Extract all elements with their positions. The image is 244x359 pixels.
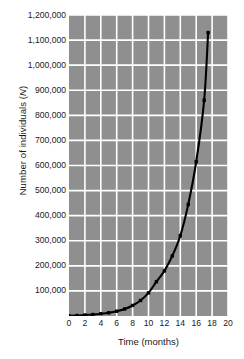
x-axis-title: Time (months) bbox=[69, 336, 228, 347]
y-axis-tick-label: 900,000 bbox=[6, 86, 66, 95]
data-point-marker bbox=[99, 312, 102, 315]
x-axis-tick-labels: 02468101214161820 bbox=[69, 318, 228, 332]
plot-area bbox=[69, 15, 228, 316]
data-point-marker bbox=[206, 31, 209, 34]
y-axis-tick-label: 600,000 bbox=[6, 161, 66, 170]
data-point-marker bbox=[83, 313, 86, 316]
y-axis-tick-label: 200,000 bbox=[6, 261, 66, 270]
x-axis-tick-label: 20 bbox=[218, 318, 238, 328]
data-line-population-growth bbox=[69, 33, 208, 316]
y-axis-tick-label: 500,000 bbox=[6, 186, 66, 195]
y-axis-tick-label: 700,000 bbox=[6, 136, 66, 145]
data-point-marker bbox=[123, 307, 126, 310]
data-point-markers bbox=[69, 31, 210, 316]
data-point-marker bbox=[195, 160, 198, 163]
plot-svg bbox=[69, 15, 228, 316]
data-point-marker bbox=[115, 310, 118, 313]
data-point-marker bbox=[202, 99, 205, 102]
data-point-marker bbox=[91, 313, 94, 316]
data-point-marker bbox=[155, 280, 158, 283]
data-point-marker bbox=[107, 311, 110, 314]
data-point-marker bbox=[163, 269, 166, 272]
y-axis-tick-label: 300,000 bbox=[6, 236, 66, 245]
data-point-marker bbox=[179, 234, 182, 237]
y-axis-tick-label: 100,000 bbox=[6, 286, 66, 295]
data-point-marker bbox=[171, 254, 174, 257]
data-point-marker bbox=[187, 203, 190, 206]
data-point-marker bbox=[147, 291, 150, 294]
data-point-marker bbox=[69, 314, 71, 316]
data-point-marker bbox=[131, 304, 134, 307]
y-axis-tick-label: 800,000 bbox=[6, 111, 66, 120]
y-axis-tick-label: 400,000 bbox=[6, 211, 66, 220]
data-point-marker bbox=[139, 299, 142, 302]
y-axis-tick-labels: 100,000200,000300,000400,000500,000600,0… bbox=[4, 0, 66, 359]
exponential-growth-chart: Number of individuals (N) 100,000200,000… bbox=[0, 0, 244, 359]
y-axis-tick-label: 1,100,000 bbox=[6, 36, 66, 45]
data-point-marker bbox=[75, 314, 78, 316]
y-axis-tick-label: 1,000,000 bbox=[6, 61, 66, 70]
y-axis-tick-label: 1,200,000 bbox=[6, 11, 66, 20]
